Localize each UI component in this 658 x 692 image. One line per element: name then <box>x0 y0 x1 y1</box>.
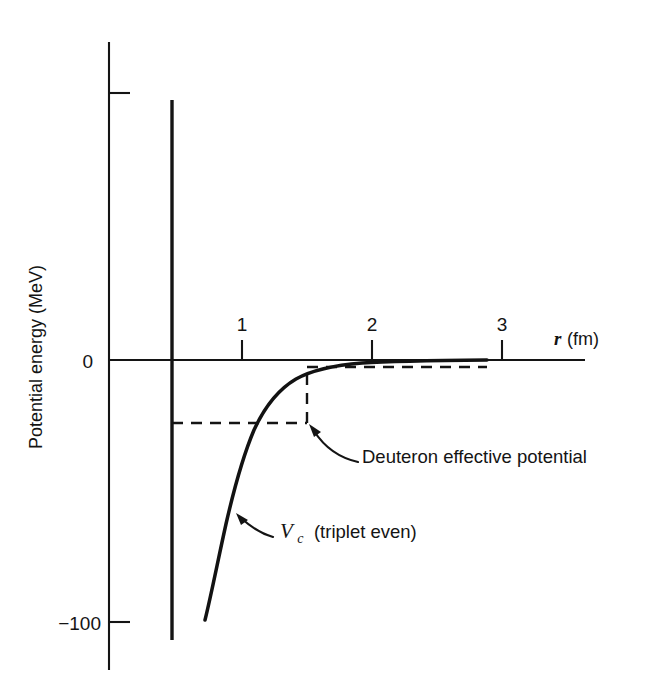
x-axis-unit: (fm) <box>567 329 599 349</box>
vc-symbol-glyph: V <box>280 519 295 543</box>
y-axis-label: Potential energy (MeV) <box>26 265 46 449</box>
plot-canvas: 0 −100 1 2 3 r (fm) Potential energy (Me… <box>0 0 658 692</box>
vc-annotation-label: V c (triplet even) <box>280 519 417 546</box>
y-tick-label-minus100: −100 <box>58 613 101 634</box>
vc-subscript-glyph: c <box>297 531 304 546</box>
x-tick-label-1: 1 <box>237 314 248 335</box>
vc-rest-glyph: (triplet even) <box>314 521 417 542</box>
potential-energy-figure: 0 −100 1 2 3 r (fm) Potential energy (Me… <box>0 0 658 692</box>
x-tick-label-3: 3 <box>497 314 508 335</box>
vc-potential-curve <box>205 360 487 620</box>
deuteron-leader-line <box>314 431 358 462</box>
x-axis-symbol: r <box>554 328 562 349</box>
y-tick-label-zero: 0 <box>82 351 93 372</box>
deuteron-arrow-head <box>309 424 321 437</box>
x-tick-label-2: 2 <box>367 314 378 335</box>
deuteron-annotation-label: Deuteron effective potential <box>362 446 587 467</box>
